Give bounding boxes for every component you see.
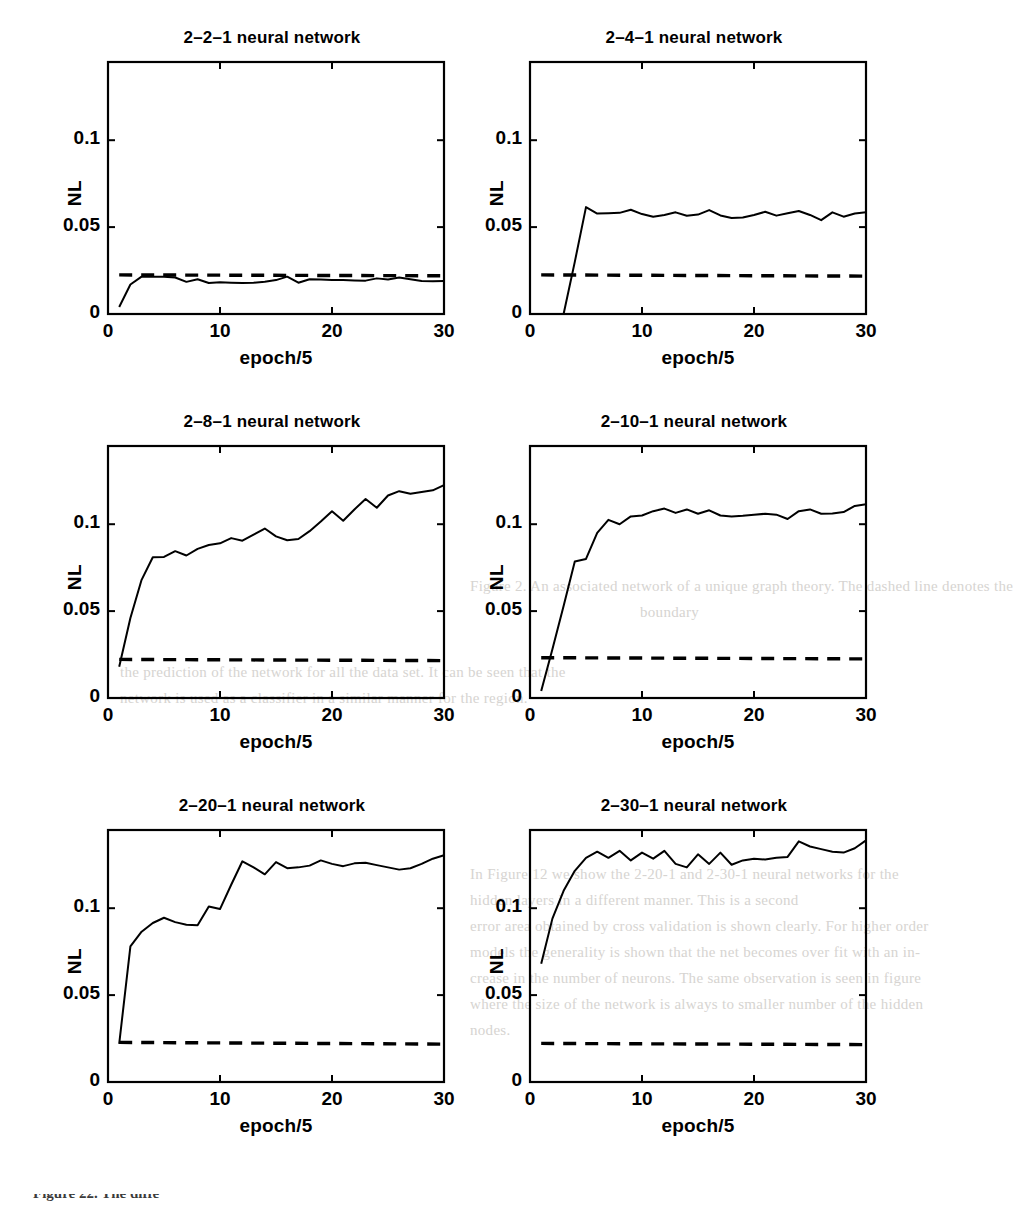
x-axis-tick-label: 0	[500, 1088, 560, 1110]
x-axis-tick-label: 0	[500, 320, 560, 342]
chart-title: 2–10–1 neural network	[484, 412, 904, 432]
plot-area: 00.050.10102030NLepoch/5	[484, 824, 904, 1136]
data-line	[541, 504, 866, 691]
reference-line	[541, 658, 866, 659]
chart-title: 2–30–1 neural network	[484, 796, 904, 816]
y-axis-tick-label: 0.05	[62, 214, 100, 236]
x-axis-label: epoch/5	[530, 347, 866, 369]
chart-panel: 2–30–1 neural network00.050.10102030NLep…	[484, 796, 904, 1136]
x-axis-tick-label: 10	[190, 704, 250, 726]
y-axis-tick-label: 0.1	[62, 511, 100, 533]
y-axis-tick-label: 0.1	[62, 895, 100, 917]
plot-area: 00.050.10102030NLepoch/5	[484, 56, 904, 368]
data-line	[119, 277, 444, 307]
reference-line	[119, 659, 444, 660]
x-axis-tick-label: 0	[78, 320, 138, 342]
y-axis-tick-label: 0.05	[62, 598, 100, 620]
chart-title: 2–20–1 neural network	[62, 796, 482, 816]
data-line	[119, 855, 444, 1044]
chart-panel: 2–4–1 neural network00.050.10102030NLepo…	[484, 28, 904, 368]
reference-line	[119, 275, 444, 276]
x-axis-tick-label: 30	[836, 704, 896, 726]
x-axis-label: epoch/5	[108, 1115, 444, 1137]
x-axis-label: epoch/5	[530, 1115, 866, 1137]
chart-panel: 2–20–1 neural network00.050.10102030NLep…	[62, 796, 482, 1136]
x-axis-tick-label: 30	[414, 704, 474, 726]
y-axis-tick-label: 0.1	[484, 895, 522, 917]
data-line	[541, 840, 866, 963]
chart-title: 2–8–1 neural network	[62, 412, 482, 432]
x-axis-tick-label: 20	[724, 320, 784, 342]
reference-line	[541, 1043, 866, 1044]
x-axis-tick-label: 0	[78, 704, 138, 726]
y-axis-tick-label: 0.05	[484, 214, 522, 236]
data-line	[564, 207, 866, 314]
y-axis-tick-label: 0.05	[484, 982, 522, 1004]
figure-caption: Figure 22. The diffe	[33, 1194, 159, 1202]
x-axis-tick-label: 30	[414, 1088, 474, 1110]
x-axis-tick-label: 10	[612, 704, 672, 726]
x-axis-tick-label: 30	[836, 320, 896, 342]
chart-panel: 2–2–1 neural network00.050.10102030NLepo…	[62, 28, 482, 368]
x-axis-label: epoch/5	[530, 731, 866, 753]
y-axis-label: NL	[64, 564, 86, 590]
x-axis-tick-label: 10	[612, 1088, 672, 1110]
x-axis-tick-label: 10	[190, 1088, 250, 1110]
y-axis-label: NL	[486, 948, 508, 974]
x-axis-tick-label: 30	[414, 320, 474, 342]
x-axis-tick-label: 10	[190, 320, 250, 342]
chart-panel: 2–10–1 neural network00.050.10102030NLep…	[484, 412, 904, 752]
y-axis-tick-label: 0.1	[484, 127, 522, 149]
y-axis-tick-label: 0.05	[62, 982, 100, 1004]
figure-caption-strip: Figure 22. The diffe	[0, 1194, 923, 1206]
x-axis-tick-label: 20	[302, 320, 362, 342]
data-line	[119, 485, 444, 667]
y-axis-tick-label: 0.1	[62, 127, 100, 149]
x-axis-tick-label: 20	[724, 704, 784, 726]
x-axis-tick-label: 0	[78, 1088, 138, 1110]
plot-area: 00.050.10102030NLepoch/5	[62, 440, 482, 752]
plot-area: 00.050.10102030NLepoch/5	[62, 56, 482, 368]
y-axis-tick-label: 0.05	[484, 598, 522, 620]
x-axis-tick-label: 30	[836, 1088, 896, 1110]
chart-title: 2–4–1 neural network	[484, 28, 904, 48]
chart-title: 2–2–1 neural network	[62, 28, 482, 48]
y-axis-label: NL	[486, 180, 508, 206]
x-axis-label: epoch/5	[108, 731, 444, 753]
reference-line	[541, 275, 866, 276]
reference-line	[119, 1042, 444, 1044]
plot-area: 00.050.10102030NLepoch/5	[62, 824, 482, 1136]
chart-panel: 2–8–1 neural network00.050.10102030NLepo…	[62, 412, 482, 752]
x-axis-tick-label: 20	[302, 1088, 362, 1110]
x-axis-tick-label: 0	[500, 704, 560, 726]
x-axis-tick-label: 10	[612, 320, 672, 342]
y-axis-tick-label: 0.1	[484, 511, 522, 533]
x-axis-label: epoch/5	[108, 347, 444, 369]
x-axis-tick-label: 20	[724, 1088, 784, 1110]
y-axis-label: NL	[486, 564, 508, 590]
x-axis-tick-label: 20	[302, 704, 362, 726]
y-axis-label: NL	[64, 948, 86, 974]
y-axis-label: NL	[64, 180, 86, 206]
plot-area: 00.050.10102030NLepoch/5	[484, 440, 904, 752]
